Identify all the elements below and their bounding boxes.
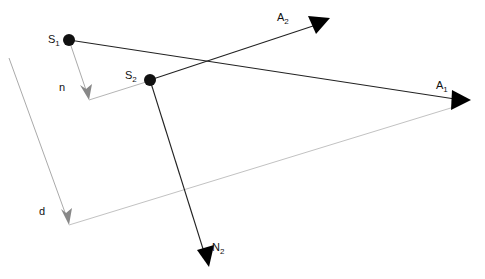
diagram-canvas: S1 S2 A2 A1 N2 n d: [0, 0, 485, 279]
n-vector-line: [69, 40, 87, 93]
label-d: d: [39, 205, 45, 217]
ray-n2-line: [150, 80, 204, 252]
label-a1: A1: [436, 79, 448, 94]
d-perpendicular-line: [69, 107, 454, 225]
ray-a2-line: [150, 25, 316, 80]
label-s1: S1: [48, 33, 60, 48]
d-arrowhead-icon: [61, 208, 72, 225]
point-s1-dot: [63, 34, 75, 46]
a2-arrowhead-icon: [308, 16, 330, 34]
label-a2: A2: [277, 11, 289, 26]
a1-arrowhead-icon: [451, 90, 471, 110]
n-arrowhead-icon: [80, 84, 92, 100]
label-n2: N2: [212, 241, 225, 256]
n-perpendicular-line: [89, 82, 146, 100]
label-n: n: [59, 81, 65, 93]
point-s2-dot: [144, 74, 156, 86]
label-s2: S2: [125, 69, 137, 84]
